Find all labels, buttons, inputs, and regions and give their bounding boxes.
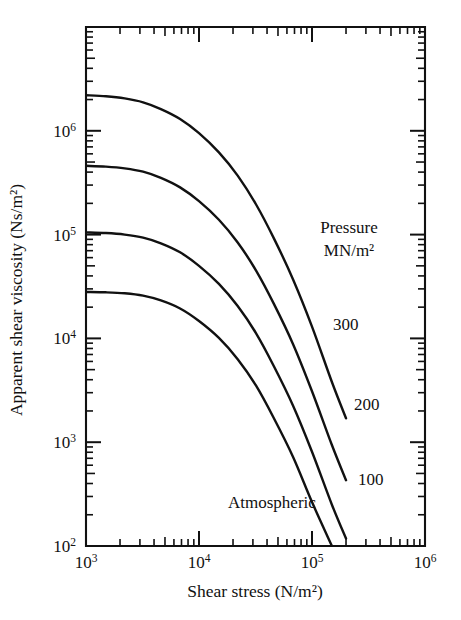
tick-label: 106 [53, 121, 76, 141]
plot-frame [86, 27, 425, 546]
series-label-200: 200 [354, 395, 380, 414]
chart-figure: 103104105106 102103104105106 Shear stres… [0, 0, 461, 620]
viscosity-log-log-chart: 103104105106 102103104105106 Shear stres… [0, 0, 461, 620]
series-label-300: 300 [333, 315, 359, 334]
x-axis-ticks [86, 27, 425, 546]
tick-label: 106 [414, 552, 437, 572]
series-label-atmospheric: Atmospheric [228, 493, 316, 512]
curve-200 [86, 166, 346, 480]
tick-label: 105 [301, 552, 324, 572]
curve-300 [86, 95, 346, 418]
y-axis-tick-labels: 102103104105106 [53, 121, 76, 556]
x-axis-title: Shear stress (N/m²) [187, 581, 323, 601]
legend-title-units: MN/m² [324, 241, 374, 260]
tick-label: 103 [53, 432, 76, 452]
tick-label: 105 [53, 225, 76, 245]
y-axis-ticks [86, 27, 425, 546]
tick-label: 102 [53, 536, 76, 556]
tick-label: 104 [188, 552, 211, 572]
tick-label: 104 [53, 328, 76, 348]
x-axis-tick-labels: 103104105106 [75, 552, 437, 572]
y-axis-title: Apparent shear viscosity (Ns/m²) [6, 184, 26, 416]
legend-title-pressure: Pressure [320, 218, 378, 237]
tick-label: 103 [75, 552, 98, 572]
data-curves [86, 95, 346, 546]
series-label-100: 100 [358, 470, 384, 489]
